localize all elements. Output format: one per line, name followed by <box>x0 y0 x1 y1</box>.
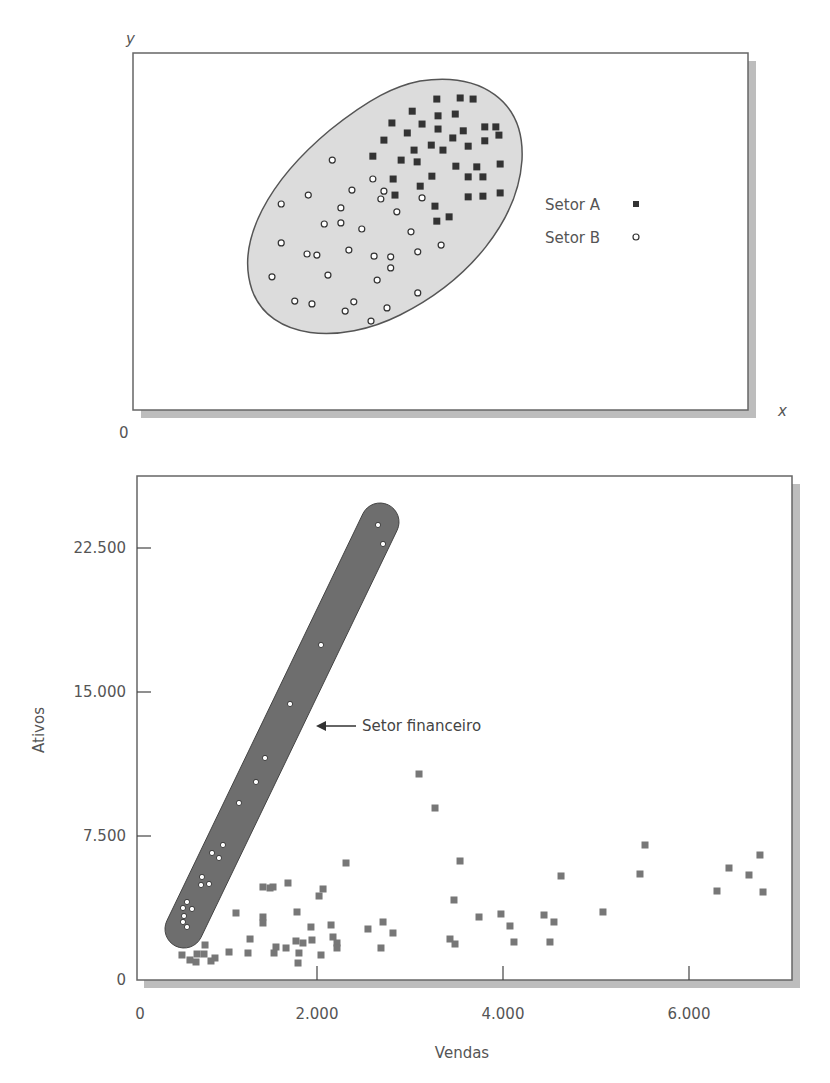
setor-a-point <box>473 163 480 170</box>
setor-a-point <box>419 121 426 128</box>
setor-b-point <box>378 196 384 202</box>
other-sector-point <box>389 929 396 936</box>
financial-sector-point <box>206 881 211 886</box>
setor-b-point <box>292 298 298 304</box>
setor-a-point <box>414 158 421 165</box>
setor-b-point <box>329 157 335 163</box>
financial-sector-point <box>198 882 203 887</box>
setor-a-point <box>446 213 453 220</box>
other-sector-point <box>317 952 324 959</box>
setor-b-point <box>415 290 421 296</box>
other-sector-point <box>295 960 302 967</box>
y-tick-label: 0 <box>116 971 126 989</box>
other-sector-point <box>272 943 279 950</box>
setor-b-point <box>394 209 400 215</box>
other-sector-point <box>756 852 763 859</box>
financial-sector-point <box>180 905 185 910</box>
financial-sector-point <box>380 541 385 546</box>
financial-sector-point <box>209 850 214 855</box>
other-sector-point <box>308 937 315 944</box>
setor-b-point <box>371 253 377 259</box>
setor-a-point <box>465 173 472 180</box>
setor-a-point <box>388 119 395 126</box>
financial-sector-point <box>180 919 185 924</box>
setor-a-point <box>390 176 397 183</box>
other-sector-point <box>186 956 193 963</box>
other-sector-point <box>364 926 371 933</box>
financial-sector-point <box>236 800 241 805</box>
other-sector-point <box>259 919 266 926</box>
legend-marker-setor-a <box>633 201 639 207</box>
setor-a-point <box>433 218 440 225</box>
financial-sector-point <box>189 906 194 911</box>
setor-b-point <box>438 242 444 248</box>
other-sector-point <box>497 910 504 917</box>
other-sector-point <box>193 958 200 965</box>
other-sector-point <box>294 908 301 915</box>
other-sector-point <box>283 944 290 951</box>
setor-b-point <box>278 201 284 207</box>
setor-a-point <box>433 96 440 103</box>
other-sector-point <box>506 922 513 929</box>
y-tick-label: 22.500 <box>74 539 127 557</box>
setor-b-point <box>370 176 376 182</box>
setor-a-point <box>411 147 418 154</box>
setor-a-point <box>465 193 472 200</box>
other-sector-point <box>178 952 185 959</box>
financial-sector-point <box>287 701 292 706</box>
financial-sector-point <box>375 522 380 527</box>
other-sector-point <box>328 921 335 928</box>
other-sector-point <box>320 885 327 892</box>
setor-a-point <box>479 173 486 180</box>
financial-sector-point <box>216 855 221 860</box>
other-sector-point <box>457 857 464 864</box>
setor-b-point <box>346 247 352 253</box>
setor-a-point <box>497 161 504 168</box>
setor-a-point <box>439 147 446 154</box>
setor-b-point <box>381 188 387 194</box>
financial-sector-point <box>199 874 204 879</box>
other-sector-point <box>377 944 384 951</box>
other-sector-point <box>510 939 517 946</box>
setor-b-point <box>338 220 344 226</box>
setor-b-point <box>338 205 344 211</box>
setor-b-point <box>309 301 315 307</box>
other-sector-point <box>226 949 233 956</box>
setor-a-point <box>452 111 459 118</box>
setor-a-point <box>398 157 405 164</box>
x-tick-label: 0 <box>135 1005 145 1023</box>
setor-b-point <box>415 249 421 255</box>
setor-a-point <box>460 127 467 134</box>
other-sector-point <box>247 936 254 943</box>
financial-sector-point <box>318 642 323 647</box>
setor-b-point <box>419 195 425 201</box>
other-sector-point <box>452 941 459 948</box>
setor-a-point <box>435 126 442 133</box>
setor-a-point <box>380 137 387 144</box>
setor-a-point <box>404 129 411 136</box>
other-sector-point <box>636 870 643 877</box>
other-sector-point <box>329 933 336 940</box>
setor-b-point <box>359 226 365 232</box>
financial-sector-point <box>181 913 186 918</box>
other-sector-point <box>745 871 752 878</box>
financial-sector-point <box>220 842 225 847</box>
setor-a-point <box>479 193 486 200</box>
other-sector-point <box>432 805 439 812</box>
financial-sector-point <box>184 924 189 929</box>
setor-b-point <box>305 192 311 198</box>
other-sector-point <box>558 872 565 879</box>
y-axis-title: Ativos <box>30 707 48 753</box>
setor-a-point <box>431 203 438 210</box>
other-sector-point <box>380 918 387 925</box>
setor-a-point <box>495 132 502 139</box>
other-sector-point <box>307 924 314 931</box>
setor-a-point <box>369 153 376 160</box>
setor-a-point <box>417 183 424 190</box>
other-sector-point <box>760 889 767 896</box>
setor-a-point <box>452 163 459 170</box>
other-sector-point <box>211 954 218 961</box>
other-sector-point <box>450 896 457 903</box>
other-sector-point <box>416 771 423 778</box>
other-sector-point <box>259 883 266 890</box>
